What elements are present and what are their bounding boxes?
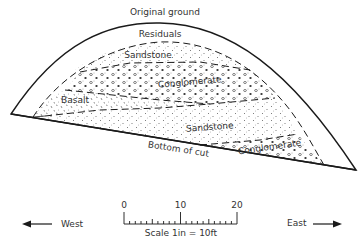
scale-tick-20: 20 — [231, 200, 243, 210]
label-west: West — [61, 219, 84, 229]
scale-tick-0: 0 — [121, 200, 127, 210]
east-arrow-icon — [313, 221, 342, 228]
label-east: East — [287, 218, 307, 228]
west-arrow-icon — [22, 221, 52, 228]
scale-caption: Scale 1in = 10ft — [145, 228, 218, 238]
label-original-ground: Original ground — [130, 7, 200, 17]
scale-tick-10: 10 — [175, 200, 187, 210]
scale-bar — [124, 212, 237, 224]
label-residuals: Residuals — [139, 29, 182, 39]
label-basalt: Basalt — [61, 95, 89, 105]
cross-section-diagram: Original ground Residuals Sandstone Cong… — [0, 0, 363, 243]
label-sandstone-upper: Sandstone — [124, 50, 172, 60]
